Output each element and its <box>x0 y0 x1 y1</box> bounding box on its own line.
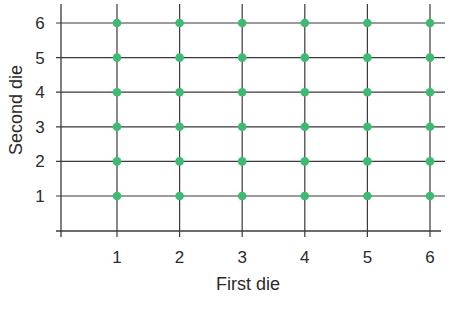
y-tick-label: 4 <box>35 83 44 102</box>
data-point <box>113 123 122 132</box>
data-point <box>301 123 310 132</box>
data-point <box>175 53 184 62</box>
x-tick-label: 2 <box>175 248 184 267</box>
axes <box>56 4 441 237</box>
y-tick-label: 3 <box>35 118 44 137</box>
data-point <box>238 53 247 62</box>
x-tick-label: 3 <box>237 248 246 267</box>
y-tick-label: 2 <box>35 152 44 171</box>
grid <box>56 4 445 237</box>
data-point <box>238 123 247 132</box>
data-point <box>301 19 310 28</box>
data-point <box>113 88 122 97</box>
data-point <box>363 19 372 28</box>
data-point <box>238 88 247 97</box>
data-point <box>238 192 247 201</box>
data-point <box>363 192 372 201</box>
x-axis-title: First die <box>216 274 280 294</box>
data-point <box>113 53 122 62</box>
data-point <box>426 157 435 166</box>
y-axis-title: Second die <box>6 65 26 155</box>
data-point <box>301 192 310 201</box>
x-tick-label: 6 <box>425 248 434 267</box>
data-point <box>175 19 184 28</box>
data-point <box>426 192 435 201</box>
data-point <box>301 53 310 62</box>
y-tick-label: 5 <box>35 49 44 68</box>
dice-outcome-chart: 123456123456 First die Second die <box>0 0 462 330</box>
data-point <box>301 157 310 166</box>
data-point <box>426 123 435 132</box>
x-tick-label: 1 <box>112 248 121 267</box>
data-point <box>363 123 372 132</box>
data-point <box>113 192 122 201</box>
data-point <box>301 88 310 97</box>
data-point <box>175 123 184 132</box>
data-point <box>238 19 247 28</box>
y-tick-label: 6 <box>35 14 44 33</box>
data-point <box>426 19 435 28</box>
data-point <box>426 53 435 62</box>
data-points <box>113 19 435 201</box>
x-tick-label: 4 <box>300 248 309 267</box>
data-point <box>363 53 372 62</box>
data-point <box>113 19 122 28</box>
data-point <box>113 157 122 166</box>
data-point <box>175 88 184 97</box>
data-point <box>363 157 372 166</box>
data-point <box>363 88 372 97</box>
x-tick-label: 5 <box>363 248 372 267</box>
tick-labels: 123456123456 <box>35 14 434 267</box>
data-point <box>175 192 184 201</box>
data-point <box>238 157 247 166</box>
y-tick-label: 1 <box>35 187 44 206</box>
data-point <box>175 157 184 166</box>
data-point <box>426 88 435 97</box>
